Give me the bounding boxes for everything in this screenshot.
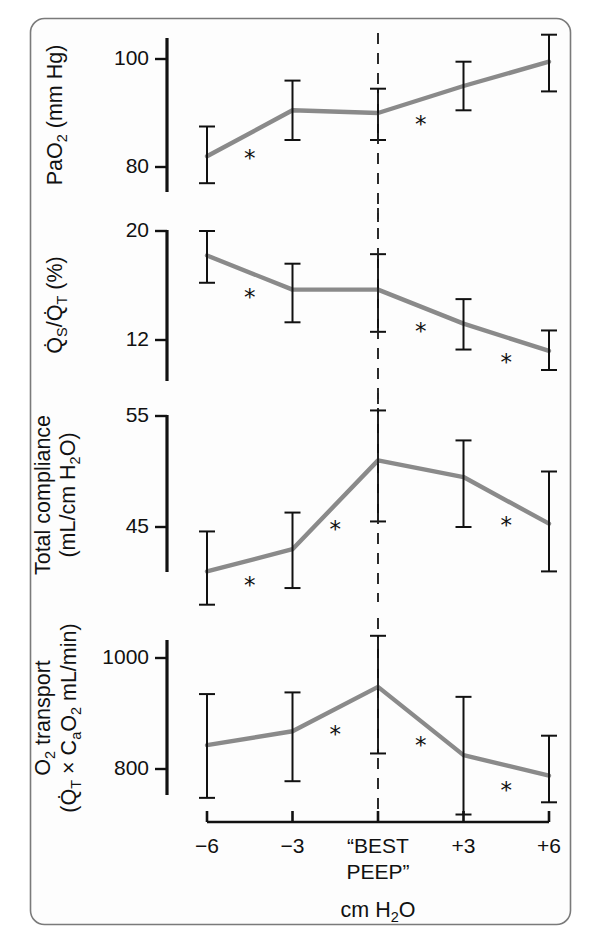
y-axis-title-panel-3-line2: (mL/cm H2O) xyxy=(56,432,83,557)
significance-star-3-0: * xyxy=(244,572,256,598)
x-tick-label-4: +6 xyxy=(537,834,561,857)
y-axis-title-panel-1: PaO2 (mm Hg) xyxy=(43,45,70,186)
significance-star-3-1: * xyxy=(330,516,342,542)
y-tick-label-3-1: 45 xyxy=(126,514,149,537)
y-axis-title-text-3b: (mL/cm H2O) xyxy=(56,432,83,557)
y-tick-label-4-0: 1000 xyxy=(102,645,149,668)
x-tick-label-3: +3 xyxy=(452,834,476,857)
y-tick-label-1-0: 100 xyxy=(114,46,149,69)
x-tick-label-2-line2: PEEP” xyxy=(346,860,409,883)
y-tick-label-2-0: 20 xyxy=(126,218,149,241)
significance-star-3-2: * xyxy=(501,512,513,538)
y-axis-title-text-3a: Total compliance xyxy=(31,415,55,575)
figure-border xyxy=(31,19,571,925)
figure-canvas: 10080**2012***5545***1000800***PaO2 (mm … xyxy=(0,0,593,940)
y-axis-title-text-2: Q̇S/Q̇T (%) xyxy=(43,256,70,353)
y-tick-label-4-1: 800 xyxy=(114,756,149,779)
significance-star-1-0: * xyxy=(244,145,256,171)
significance-star-2-0: * xyxy=(244,284,256,310)
y-tick-label-1-1: 80 xyxy=(126,154,149,177)
significance-star-4-0: * xyxy=(330,721,342,747)
y-tick-label-3-0: 55 xyxy=(126,403,149,426)
x-tick-label-0: −6 xyxy=(195,834,219,857)
significance-star-1-1: * xyxy=(415,111,427,137)
y-axis-title-panel-2: Q̇S/Q̇T (%) xyxy=(43,256,70,353)
significance-star-4-1: * xyxy=(415,732,427,758)
significance-star-2-2: * xyxy=(501,349,513,375)
x-tick-label-1: −3 xyxy=(281,834,305,857)
significance-star-4-2: * xyxy=(501,777,513,803)
y-tick-label-2-1: 12 xyxy=(126,327,149,350)
significance-star-2-1: * xyxy=(415,318,427,344)
x-axis-title: cm H2O xyxy=(341,898,416,925)
y-axis-title-text-1: PaO2 (mm Hg) xyxy=(43,45,70,186)
y-axis-title-panel-3-line1: Total compliance xyxy=(31,415,55,575)
x-tick-label-2: “BEST xyxy=(347,834,409,857)
